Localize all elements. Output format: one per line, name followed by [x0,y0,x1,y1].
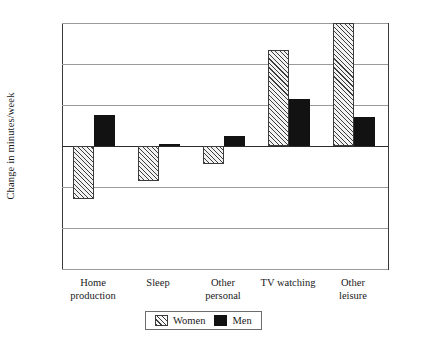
bar-men-other-leisure [354,117,375,146]
gridline-neg40 [62,228,388,229]
plot-right-border [388,23,389,270]
bar-women-tv-watching [268,50,289,146]
bar-men-home-production [94,115,115,146]
category-line-2: personal [205,290,241,301]
legend-item-men: Men [214,315,251,326]
category-line-2: leisure [339,290,367,301]
bar-women-other-leisure [333,23,354,146]
category-line-2: production [70,290,116,301]
bar-women-sleep [138,146,159,181]
gridline-zero [62,146,388,147]
category-line-1: Other [211,277,235,288]
category-line-1: Sleep [146,277,169,288]
plot-area [62,23,388,269]
bar-men-sleep [159,144,180,146]
category-label-other-leisure: Other leisure [301,276,405,302]
gridline-neg20 [62,187,388,188]
bar-women-home-production [73,146,94,199]
bar-men-other-personal [224,136,245,146]
hatch-swatch-icon [155,315,168,326]
bar-men-tv-watching [289,99,310,146]
gridline-neg60 [62,269,388,270]
legend-item-women: Women [155,315,205,326]
bar-chart: Change in minutes/week 60 40 20 0 -20 -4… [0,0,424,348]
legend-label-women: Women [173,315,205,326]
legend-label-men: Men [232,315,251,326]
chart-legend: Women Men [145,311,262,330]
solid-swatch-icon [214,315,227,326]
category-line-1: Other [341,277,365,288]
y-axis-title: Change in minutes/week [5,46,16,246]
bar-women-other-personal [203,146,224,164]
category-line-1: Home [80,277,106,288]
